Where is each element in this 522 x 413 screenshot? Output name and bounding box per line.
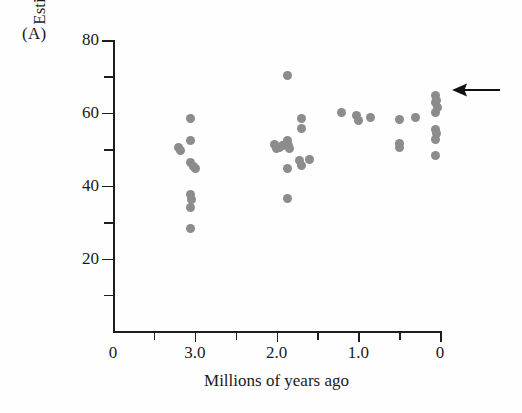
y-axis-title-container: Estimated body weight (kg) xyxy=(38,40,62,333)
scatter-point xyxy=(297,114,306,123)
y-axis-line xyxy=(113,40,115,333)
scatter-point xyxy=(297,161,306,170)
x-tick-major xyxy=(440,331,442,342)
scatter-point xyxy=(283,71,292,80)
scatter-point xyxy=(186,136,195,145)
scatter-point xyxy=(186,203,195,212)
scatter-point xyxy=(186,224,195,233)
y-tick-label: 40 xyxy=(82,175,99,195)
y-tick-label: 60 xyxy=(82,102,99,122)
y-axis-title: Estimated body weight (kg) xyxy=(30,0,50,65)
y-tick-major xyxy=(102,40,113,42)
scatter-point xyxy=(305,155,314,164)
x-tick-label: 3.0 xyxy=(184,343,205,363)
figure-panel-a: (A) Estimated body weight (kg) 20406080 … xyxy=(0,0,522,413)
scatter-point xyxy=(186,114,195,123)
x-tick-minor xyxy=(236,331,238,340)
scatter-point xyxy=(285,144,294,153)
scatter-point xyxy=(297,124,306,133)
x-tick-minor xyxy=(399,331,401,340)
scatter-point xyxy=(191,164,200,173)
scatter-point xyxy=(176,146,185,155)
x-tick-major xyxy=(195,331,197,342)
y-tick-minor xyxy=(104,222,113,224)
scatter-point xyxy=(395,143,404,152)
x-tick-label: 0 xyxy=(436,343,445,363)
plot-area: 20406080 03.02.01.00 xyxy=(113,40,440,333)
y-tick-label: 80 xyxy=(82,30,99,50)
left-pointing-arrow-icon xyxy=(450,82,502,98)
y-tick-major xyxy=(102,186,113,188)
scatter-point xyxy=(354,116,363,125)
x-tick-minor xyxy=(154,331,156,340)
scatter-point xyxy=(431,135,440,144)
y-tick-label: 20 xyxy=(82,248,99,268)
x-axis-title: Millions of years ago xyxy=(113,371,440,391)
scatter-point xyxy=(283,164,292,173)
x-tick-major xyxy=(277,331,279,342)
scatter-point xyxy=(431,151,440,160)
scatter-point xyxy=(411,113,420,122)
y-tick-major xyxy=(102,259,113,261)
x-tick-label: 1.0 xyxy=(348,343,369,363)
x-tick-label: 2.0 xyxy=(266,343,287,363)
x-tick-label: 0 xyxy=(109,343,118,363)
scatter-point xyxy=(337,108,346,117)
scatter-point xyxy=(283,194,292,203)
y-tick-major xyxy=(102,113,113,115)
scatter-point xyxy=(366,113,375,122)
y-tick-minor xyxy=(104,295,113,297)
scatter-point xyxy=(431,108,440,117)
x-tick-minor xyxy=(317,331,319,340)
y-tick-minor xyxy=(104,76,113,78)
x-tick-major xyxy=(358,331,360,342)
scatter-point xyxy=(395,115,404,124)
y-tick-minor xyxy=(104,149,113,151)
